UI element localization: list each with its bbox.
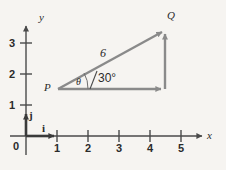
theta-label: θ [76,77,81,87]
i-vector-label: i [42,123,45,134]
angle-leader-line [90,71,97,89]
x-tick-label-3: 3 [116,143,122,154]
point-p-label: P [44,82,51,93]
x-axis-label: x [207,130,212,141]
diagram-canvas [0,0,226,170]
y-tick-label-3: 3 [9,38,15,49]
y-axis-label: y [39,12,44,23]
hypotenuse-length-label: 6 [100,47,106,59]
x-tick-label-1: 1 [54,143,60,154]
point-q-label: Q [167,10,175,21]
x-tick-label-4: 4 [147,143,153,154]
origin-label: 0 [13,141,19,152]
j-vector-label: j [29,110,33,121]
x-tick-label-5: 5 [178,143,184,154]
y-tick-label-2: 2 [9,69,15,80]
y-tick-label-1: 1 [9,100,15,111]
angle-degrees-label: 30° [98,72,116,84]
x-tick-label-2: 2 [85,143,91,154]
vector-diagram: y x 0 1 2 3 4 5 1 2 3 i j P Q 6 θ 30° [0,0,226,170]
